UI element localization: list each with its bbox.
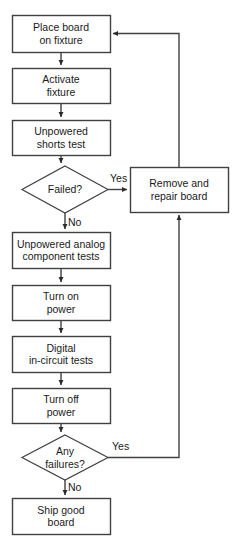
node-analog_tests[interactable] — [13, 233, 111, 269]
node-digital_tests[interactable] — [13, 337, 111, 373]
node-ship_board[interactable] — [13, 499, 111, 535]
flowchart-canvas: Place board on fixtureActivate fixtureUn… — [0, 0, 236, 541]
edge-e_anyfail_yes — [108, 215, 179, 458]
edge-label-e_anyfail_no: No — [68, 481, 81, 493]
flowchart-graphics — [0, 0, 236, 541]
edge-label-e_failed_no: No — [68, 216, 81, 228]
node-shapes — [13, 16, 229, 535]
node-remove_repair[interactable] — [131, 168, 229, 213]
node-place_board[interactable] — [13, 16, 111, 53]
edge-label-e_anyfail_yes: Yes — [112, 440, 129, 452]
node-activate_fixture[interactable] — [13, 69, 111, 104]
node-shorts_test[interactable] — [13, 121, 111, 156]
node-turn_off_power[interactable] — [13, 389, 111, 424]
edge-label-e_failed_yes: Yes — [110, 172, 127, 184]
node-any_failures[interactable] — [22, 435, 108, 480]
edge-e_repair_place — [113, 34, 179, 168]
node-turn_on_power[interactable] — [13, 286, 111, 321]
node-failed_decision[interactable] — [22, 166, 108, 213]
